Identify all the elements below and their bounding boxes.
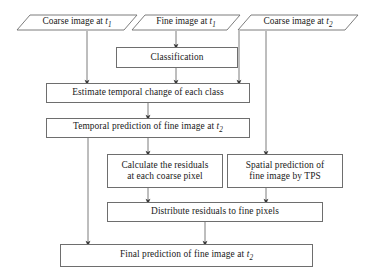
- process-classification: Classification: [116, 47, 238, 68]
- process-temporal-prediction: Temporal prediction of fine image at t2: [46, 118, 250, 138]
- process-distribute-residuals: Distribute residuals to fine pixels: [107, 202, 323, 222]
- input-coarse-image-t2-label: Coarse image at t2: [262, 16, 335, 29]
- process-spatial-prediction-tps: Spatial prediction of fine image by TPS: [227, 154, 343, 188]
- process-distribute-residuals-label: Distribute residuals to fine pixels: [108, 206, 322, 217]
- output-final-prediction: Final prediction of fine image at t2: [60, 244, 313, 267]
- input-coarse-image-t1: Coarse image at t1: [16, 14, 138, 31]
- input-coarse-image-t1-label: Coarse image at t1: [41, 16, 114, 29]
- process-temporal-prediction-label: Temporal prediction of fine image at t2: [47, 121, 249, 134]
- process-estimate-temporal-change-label: Estimate temporal change of each class: [47, 87, 249, 98]
- process-calculate-residuals: Calculate the residuals at each coarse p…: [107, 154, 223, 188]
- input-fine-image-t1: Fine image at t1: [131, 14, 241, 31]
- flowchart-connectors: [0, 0, 370, 280]
- process-spatial-prediction-tps-label: Spatial prediction of fine image by TPS: [228, 160, 342, 182]
- flowchart-diagram: Coarse image at t1 Fine image at t1 Coar…: [0, 0, 370, 280]
- process-classification-label: Classification: [117, 52, 237, 63]
- process-calculate-residuals-label: Calculate the residuals at each coarse p…: [108, 160, 222, 182]
- input-coarse-image-t2: Coarse image at t2: [237, 14, 359, 31]
- process-estimate-temporal-change: Estimate temporal change of each class: [46, 83, 250, 103]
- output-final-prediction-label: Final prediction of fine image at t2: [61, 249, 312, 262]
- input-fine-image-t1-label: Fine image at t1: [154, 16, 218, 29]
